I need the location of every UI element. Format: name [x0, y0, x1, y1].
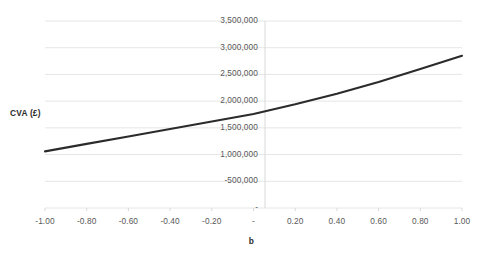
y-axis-tick-label: -	[138, 202, 258, 212]
x-axis-tick-label: 0.20	[273, 216, 317, 226]
x-axis-tick-label: 0.80	[398, 216, 442, 226]
y-axis-tick-label: 3,000,000	[138, 42, 258, 52]
y-axis-tick-label: -500,000	[138, 175, 258, 185]
x-axis-tick-label: 0.40	[315, 216, 359, 226]
y-axis-tick-label: 2,500,000	[138, 68, 258, 78]
x-axis-title-text: b	[249, 236, 254, 246]
x-axis-tick-label: -0.80	[65, 216, 109, 226]
y-axis-tick-label: 1,500,000	[138, 122, 258, 132]
x-axis-tick-label: -0.20	[190, 216, 234, 226]
y-axis-title: CVA (£)	[10, 108, 41, 118]
x-axis-tick-label: -0.60	[106, 216, 150, 226]
x-axis-tick-label: 0.60	[357, 216, 401, 226]
x-axis-tick-label: -1.00	[23, 216, 67, 226]
x-axis-title: b	[0, 236, 483, 246]
x-axis-tick-label: 1.00	[440, 216, 483, 226]
x-axis-tick-label: -0.40	[148, 216, 192, 226]
y-axis-tick-label: 3,500,000	[138, 15, 258, 25]
y-axis-tick-label: 2,000,000	[138, 95, 258, 105]
y-axis-tick-label: 1,000,000	[138, 149, 258, 159]
cva-line-chart: 3,500,0003,000,0002,500,0002,000,0001,50…	[0, 0, 483, 258]
x-axis-tick-label: -	[232, 216, 276, 226]
